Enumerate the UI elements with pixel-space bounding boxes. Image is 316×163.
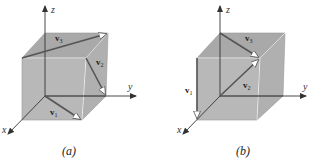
z-axis-label-b: z (225, 4, 230, 15)
z-axis-label-a: z (50, 4, 55, 15)
x-axis-label-b: x (176, 124, 182, 135)
v1-label-b: v1 (185, 85, 193, 96)
x-axis-label-a: x (1, 124, 7, 135)
y-axis-label-a: y (127, 81, 133, 92)
caption-a: (a) (62, 144, 76, 158)
figure-a: z y x v1 v2 v3 (a) (1, 4, 136, 158)
figure-b: z y x v1 v2 v3 (b) (176, 4, 308, 158)
y-axis-label-b: y (302, 81, 308, 92)
figure-canvas: z y x v1 v2 v3 (a) z y x v1 v2 (0, 0, 316, 163)
caption-b: (b) (236, 144, 250, 158)
